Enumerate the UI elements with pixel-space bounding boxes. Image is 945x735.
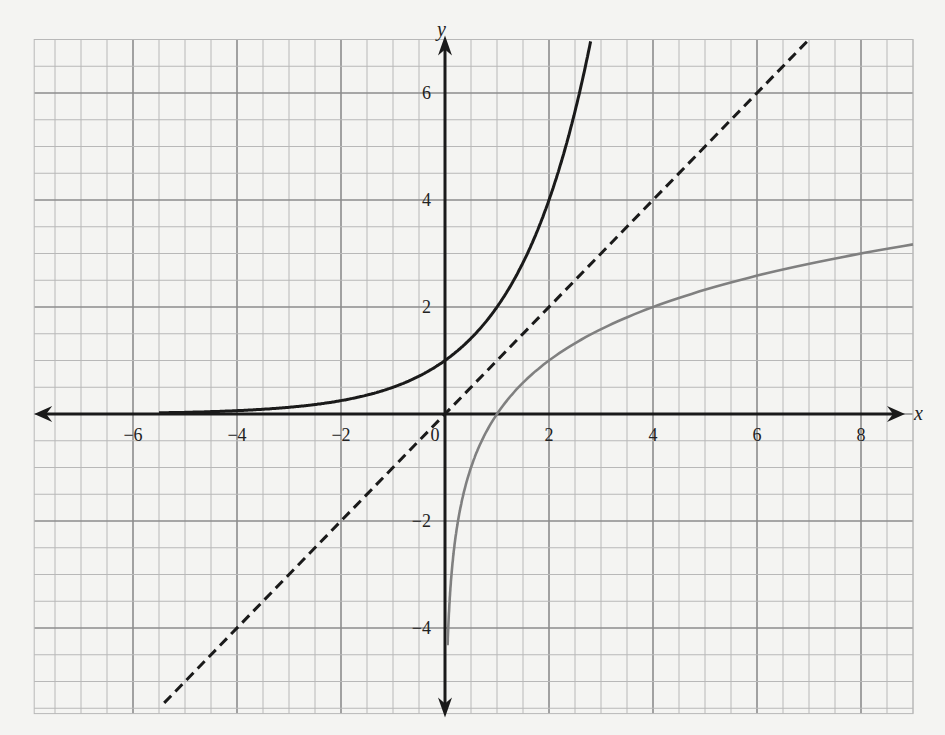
axes	[34, 36, 905, 718]
x-tick-label: −2	[331, 425, 350, 445]
x-tick-label: −6	[123, 425, 142, 445]
y-tick-label: 2	[422, 297, 431, 317]
log2-curve	[448, 244, 913, 645]
x-tick-label: 0	[431, 425, 440, 445]
grid	[34, 40, 913, 714]
y-tick-label: 6	[422, 83, 431, 103]
x-axis-label: x	[913, 402, 923, 424]
x-tick-label: 2	[545, 425, 554, 445]
grid-border	[34, 40, 913, 714]
x-tick-label: −4	[227, 425, 246, 445]
identity-dashed-line	[164, 40, 809, 703]
y-tick-label: −4	[412, 618, 431, 638]
x-tick-label: 4	[649, 425, 658, 445]
y-axis-label: y	[435, 18, 446, 41]
x-tick-label: 6	[753, 425, 762, 445]
y-tick-label: 4	[422, 190, 431, 210]
curves	[159, 40, 913, 703]
function-graph: −6−4−202468−4−2246 x y	[0, 0, 945, 735]
y-tick-label: −2	[412, 511, 431, 531]
x-tick-label: 8	[857, 425, 866, 445]
